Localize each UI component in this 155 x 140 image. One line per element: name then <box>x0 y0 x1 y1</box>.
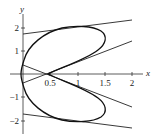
tangent-line-4 <box>23 114 132 128</box>
tangent-line-2 <box>23 41 132 83</box>
y-axis-label: y <box>19 4 24 14</box>
chart: 0.5 1 1.5 2 2 1 −1 −2 x y <box>0 0 155 140</box>
curve-lower-loop <box>21 74 105 122</box>
y-tick-label-2: 2 <box>15 23 20 33</box>
tangent-line-1 <box>23 20 132 34</box>
x-axis-label: x <box>145 68 150 78</box>
curve-upper-loop <box>21 26 105 74</box>
y-tick-label-neg2: −2 <box>9 116 19 126</box>
y-tick-label-1: 1 <box>15 46 20 56</box>
x-tick-label-1.5: 1.5 <box>99 78 111 88</box>
x-tick-label-0.5: 0.5 <box>44 78 56 88</box>
tangent-line-3 <box>23 65 132 107</box>
y-tick-label-neg1: −1 <box>9 92 19 102</box>
x-tick-label-2: 2 <box>130 78 135 88</box>
